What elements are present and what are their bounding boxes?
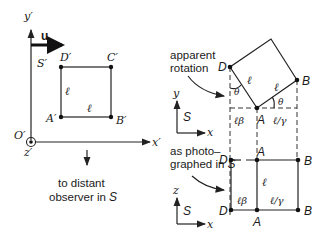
bottom-b-label: B bbox=[304, 204, 312, 218]
top-right-panel: apparent rotation D B A ℓ ℓ θ θ ℓβ ℓ/γ y… bbox=[170, 39, 310, 215]
side-middle-label: ℓ bbox=[262, 176, 267, 189]
corner-b-label: B′ bbox=[115, 114, 127, 127]
corner-a-dot bbox=[59, 115, 63, 119]
z-prime-label: z′ bbox=[23, 146, 33, 159]
bottom-right-panel: as photo– graphed in S D A B D A B ℓ ℓβ … bbox=[170, 145, 312, 231]
corner-c-dot bbox=[109, 65, 113, 69]
frame-s-label: S bbox=[183, 110, 191, 124]
seg-right-label: ℓ/γ bbox=[270, 195, 284, 206]
observer-frame: S bbox=[109, 190, 117, 204]
velocity-label: u bbox=[41, 29, 48, 43]
corner-c-label: C′ bbox=[107, 51, 118, 64]
x-label: x bbox=[207, 126, 214, 139]
annotation-apparent: apparent bbox=[170, 49, 216, 61]
annotation-pointer-arrow bbox=[188, 76, 224, 96]
side-left-label: ℓ bbox=[247, 74, 252, 87]
corner-a-dot bbox=[255, 106, 260, 111]
corner-a-label: A bbox=[256, 113, 265, 127]
x-prime-label: x′ bbox=[152, 136, 161, 149]
proj-right-label: ℓ/γ bbox=[273, 115, 287, 126]
side-right-label: ℓ bbox=[274, 81, 279, 94]
bottom-d-label: D bbox=[219, 204, 228, 218]
side-horizontal-label: ℓ bbox=[87, 102, 92, 115]
relativity-diagram: y′ x′ O′ z′ u S′ D′ C′ A′ B′ ℓ ℓ to dist… bbox=[0, 0, 329, 243]
origin-dot bbox=[29, 140, 33, 144]
top-b-label: B bbox=[304, 154, 312, 168]
side-vertical-label: ℓ bbox=[65, 85, 70, 98]
annotation-pointer-arrow bbox=[192, 176, 224, 190]
left-panel: y′ x′ O′ z′ u S′ D′ C′ A′ B′ ℓ ℓ to dist… bbox=[14, 10, 161, 204]
corner-b-dot bbox=[295, 78, 300, 83]
y-prime-label: y′ bbox=[23, 10, 33, 23]
corner-d-label: D bbox=[218, 60, 227, 74]
bottom-b-dot bbox=[296, 208, 301, 213]
angle-arc-right bbox=[272, 97, 274, 108]
proj-left-label: ℓβ bbox=[234, 115, 244, 126]
angle-right-label: θ bbox=[278, 97, 284, 107]
corner-b-dot bbox=[109, 115, 113, 119]
x-label: x bbox=[207, 218, 214, 231]
observer-text-line2: observer in S bbox=[49, 190, 117, 204]
top-d-label: D bbox=[219, 153, 228, 167]
origin-label: O′ bbox=[14, 129, 26, 142]
corner-d-dot bbox=[228, 65, 233, 70]
rotated-square bbox=[230, 39, 297, 108]
top-b-dot bbox=[296, 158, 301, 163]
corner-d-dot bbox=[59, 65, 63, 69]
frame-s-label: S bbox=[183, 204, 191, 218]
z-label: z bbox=[172, 184, 179, 197]
frame-label: S′ bbox=[37, 57, 48, 70]
corner-b-label: B bbox=[302, 74, 310, 88]
bottom-d-dot bbox=[229, 208, 234, 213]
top-d-dot bbox=[229, 158, 234, 163]
y-label: y bbox=[172, 87, 180, 100]
bottom-a-label: A bbox=[252, 215, 261, 229]
seg-left-label: ℓβ bbox=[237, 195, 247, 206]
corner-a-label: A′ bbox=[45, 112, 57, 125]
observer-text-line1: to distant bbox=[58, 177, 105, 189]
annotation-rotation: rotation bbox=[170, 62, 208, 74]
bottom-a-dot bbox=[255, 208, 260, 213]
observer-text: observer in bbox=[49, 191, 109, 203]
top-a-label: A bbox=[256, 145, 265, 159]
annotation-photographed-1: as photo– bbox=[170, 145, 221, 157]
corner-d-label: D′ bbox=[59, 51, 72, 64]
